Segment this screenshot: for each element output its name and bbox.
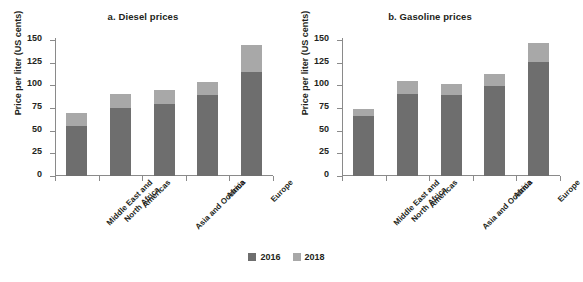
y-tick-label: 0 bbox=[37, 169, 42, 179]
x-tick bbox=[560, 176, 561, 181]
bar-segment-2018 bbox=[241, 45, 262, 72]
legend-item-2018: 2018 bbox=[293, 252, 325, 262]
bar-segment-2016 bbox=[110, 108, 131, 176]
y-tick-label: 25 bbox=[32, 146, 42, 156]
bar-group-gasoline bbox=[342, 40, 560, 176]
bar-segment-2016 bbox=[353, 116, 374, 176]
bar-segment-2016 bbox=[197, 95, 218, 176]
y-tick-label: 125 bbox=[314, 56, 329, 66]
bar-segment-2018 bbox=[353, 109, 374, 116]
legend-item-2016: 2016 bbox=[248, 252, 280, 262]
y-tick-label: 50 bbox=[32, 124, 42, 134]
bar-segment-2018 bbox=[66, 113, 87, 126]
y-tick-label: 150 bbox=[27, 33, 42, 43]
bar-diesel bbox=[66, 113, 87, 176]
x-axis-labels-gasoline: Middle East and North AfricaAmericasAsia… bbox=[342, 178, 560, 244]
legend-swatch-icon bbox=[293, 253, 301, 261]
legend-swatch-icon bbox=[248, 253, 256, 261]
y-axis-title-gasoline: Price per liter (US cents) bbox=[300, 0, 310, 133]
y-tick-label: 0 bbox=[324, 169, 329, 179]
plot-area-gasoline: 0255075100125150 bbox=[342, 40, 560, 176]
bar-segment-2018 bbox=[110, 94, 131, 109]
bar-gasoline bbox=[484, 74, 505, 176]
y-tick-label: 75 bbox=[319, 101, 329, 111]
x-axis-label: Africa bbox=[512, 178, 535, 201]
plot-area-diesel: 0255075100125150 bbox=[55, 40, 273, 176]
y-tick-label: 75 bbox=[32, 101, 42, 111]
bar-diesel bbox=[110, 94, 131, 177]
y-tick-label: 125 bbox=[27, 56, 42, 66]
x-axis-label: Africa bbox=[225, 178, 248, 201]
x-axis-labels-diesel: Middle East and North AfricaAmericasAsia… bbox=[55, 178, 273, 244]
panel-diesel-prices: a. Diesel prices Price per liter (US cen… bbox=[0, 0, 286, 245]
y-tick-label: 50 bbox=[319, 124, 329, 134]
bar-group-diesel bbox=[55, 40, 273, 176]
bar-diesel bbox=[197, 82, 218, 176]
bar-segment-2016 bbox=[241, 72, 262, 176]
bar-segment-2018 bbox=[441, 84, 462, 96]
bar-gasoline bbox=[353, 109, 374, 176]
bar-segment-2016 bbox=[528, 62, 549, 176]
panel-title-diesel: a. Diesel prices bbox=[0, 11, 286, 22]
bar-gasoline bbox=[441, 84, 462, 176]
bar-segment-2018 bbox=[484, 74, 505, 86]
bar-gasoline bbox=[528, 43, 549, 176]
x-axis-label: Middle East and North Africa bbox=[105, 178, 162, 235]
bar-segment-2018 bbox=[154, 90, 175, 105]
legend-label: 2016 bbox=[260, 252, 280, 262]
bar-diesel bbox=[241, 45, 262, 176]
bar-segment-2018 bbox=[197, 82, 218, 96]
bar-segment-2016 bbox=[66, 126, 87, 176]
y-tick-label: 100 bbox=[314, 78, 329, 88]
legend-label: 2018 bbox=[305, 252, 325, 262]
x-tick bbox=[273, 176, 274, 181]
y-tick-label: 150 bbox=[314, 33, 329, 43]
bar-segment-2016 bbox=[397, 94, 418, 176]
bar-segment-2018 bbox=[528, 43, 549, 62]
x-axis-label: Middle East and North Africa bbox=[392, 178, 449, 235]
bar-diesel bbox=[154, 90, 175, 176]
legend: 20162018 bbox=[0, 252, 573, 262]
bar-gasoline bbox=[397, 81, 418, 176]
y-tick-label: 25 bbox=[319, 146, 329, 156]
bar-segment-2016 bbox=[484, 86, 505, 176]
x-axis-label: Europe bbox=[556, 178, 583, 205]
y-axis-title-diesel: Price per liter (US cents) bbox=[13, 0, 23, 133]
panel-title-gasoline: b. Gasoline prices bbox=[287, 11, 573, 22]
bar-segment-2018 bbox=[397, 81, 418, 95]
panel-gasoline-prices: b. Gasoline prices Price per liter (US c… bbox=[287, 0, 573, 245]
y-tick-label: 100 bbox=[27, 78, 42, 88]
bar-segment-2016 bbox=[441, 95, 462, 176]
bar-segment-2016 bbox=[154, 104, 175, 176]
